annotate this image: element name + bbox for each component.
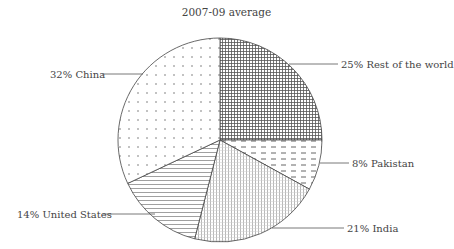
slice-label-rest-of-world: 25% Rest of the world (341, 59, 454, 71)
slice-label-united-states: 14% United States (17, 209, 112, 221)
slice-label-india: 21% India (347, 223, 398, 235)
slice-label-china: 32% China (50, 69, 105, 81)
slice-label-pakistan: 8% Pakistan (352, 158, 414, 170)
pie-slice-rest-of-the-world (220, 38, 322, 140)
